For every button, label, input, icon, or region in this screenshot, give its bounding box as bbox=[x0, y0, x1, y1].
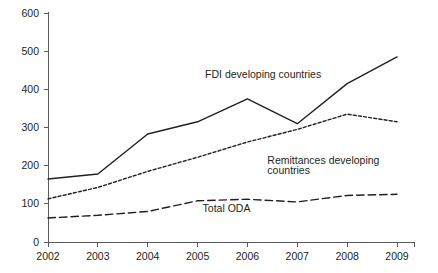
series-annotation: FDI developing countries bbox=[205, 68, 321, 80]
y-tick-label: 0 bbox=[33, 236, 39, 248]
data-series-group bbox=[48, 57, 397, 218]
y-tick-label: 200 bbox=[21, 159, 39, 171]
x-tick-label: 2003 bbox=[86, 250, 110, 262]
x-tick-label: 2009 bbox=[385, 250, 409, 262]
y-axis-tick-marks bbox=[44, 13, 48, 242]
y-tick-label: 400 bbox=[21, 83, 39, 95]
y-tick-label: 100 bbox=[21, 197, 39, 209]
line-chart: 0100200300400500600 20022003200420052006… bbox=[0, 0, 438, 273]
series-annotation-group: FDI developing countriesRemittances deve… bbox=[203, 68, 380, 214]
x-axis-tick-labels: 20022003200420052006200720082009 bbox=[36, 250, 409, 262]
x-tick-label: 2004 bbox=[136, 250, 160, 262]
y-axis-tick-labels: 0100200300400500600 bbox=[21, 7, 39, 248]
y-tick-label: 500 bbox=[21, 45, 39, 57]
y-tick-label: 300 bbox=[21, 121, 39, 133]
x-tick-label: 2007 bbox=[286, 250, 310, 262]
y-tick-label: 600 bbox=[21, 7, 39, 19]
series-annotation: Total ODA bbox=[203, 202, 251, 214]
x-axis-tick-marks bbox=[48, 242, 414, 247]
series-annotation: countries bbox=[267, 164, 310, 176]
x-tick-label: 2002 bbox=[36, 250, 60, 262]
x-tick-label: 2005 bbox=[186, 250, 210, 262]
chart-canvas: 0100200300400500600 20022003200420052006… bbox=[0, 0, 438, 273]
x-tick-label: 2006 bbox=[236, 250, 260, 262]
x-tick-label: 2008 bbox=[335, 250, 359, 262]
